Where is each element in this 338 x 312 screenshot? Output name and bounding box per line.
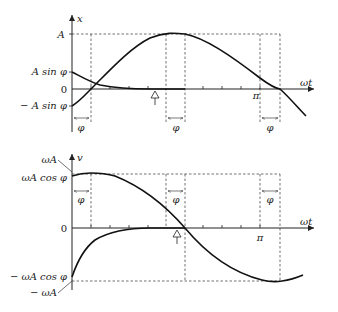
phi-label-3: φ <box>266 194 273 205</box>
phi-label-1: φ <box>77 194 84 205</box>
amplitude-label: A <box>56 29 64 40</box>
y-axis-label: v <box>77 152 83 163</box>
phi-label-1: φ <box>77 122 84 133</box>
phi-label-3: φ <box>266 122 273 133</box>
phase-diagram: x ωt A A sin φ 0 − A sin φ π φ φ φ <box>0 0 338 312</box>
neg-omega-a-label: − ωA <box>30 287 57 298</box>
phi-label-2: φ <box>172 194 179 205</box>
pi-label: π <box>256 232 264 243</box>
displacement-curve <box>72 33 306 116</box>
velocity-curve <box>72 173 303 282</box>
a-sin-phi-label: A sin φ <box>31 66 67 77</box>
x-axis-label: ωt <box>300 77 313 88</box>
neg-a-sin-phi-label: − A sin φ <box>20 100 67 111</box>
neg-omega-a-pointer <box>58 281 72 293</box>
phi-label-2: φ <box>172 122 179 133</box>
transient-curve <box>72 72 185 89</box>
bottom-plot: v ωt ωA ωA cos φ 0 − ωA cos φ − ωA π φ φ… <box>10 152 314 298</box>
marker-arrow-icon <box>151 91 159 105</box>
neg-omega-a-cos-phi-label: − ωA cos φ <box>10 271 67 282</box>
marker-arrow-icon <box>173 230 181 244</box>
zero-label: 0 <box>61 223 67 234</box>
top-plot: x ωt A A sin φ 0 − A sin φ π φ φ φ <box>20 13 314 133</box>
ticks <box>69 34 260 106</box>
zero-label: 0 <box>61 84 67 95</box>
pi-label: π <box>252 90 260 101</box>
x-axis-label: ωt <box>300 216 313 227</box>
omega-a-pointer <box>58 160 72 172</box>
transient-curve <box>72 228 185 277</box>
y-axis-label: x <box>77 13 83 24</box>
omega-a-cos-phi-label: ωA cos φ <box>22 172 68 183</box>
omega-a-label: ωA <box>42 154 57 165</box>
